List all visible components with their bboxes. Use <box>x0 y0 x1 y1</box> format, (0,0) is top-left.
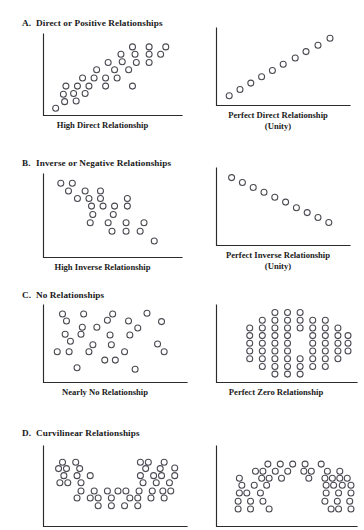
data-point <box>127 495 133 501</box>
data-point <box>322 356 328 362</box>
data-point <box>104 317 110 323</box>
data-point <box>66 349 72 355</box>
data-point <box>244 490 250 496</box>
data-point <box>56 466 62 472</box>
data-point <box>315 215 321 221</box>
data-point <box>97 196 103 202</box>
data-point <box>239 482 245 488</box>
data-point <box>259 356 265 362</box>
data-point <box>168 488 174 494</box>
data-point <box>87 495 93 501</box>
data-point <box>345 333 351 339</box>
section-d-title: Curvilinear Relationships <box>36 428 140 438</box>
data-point <box>322 348 328 354</box>
data-point <box>251 482 257 488</box>
data-point <box>297 325 303 331</box>
panel-a-right-caption: Perfect Direct Relationship (Unity) <box>198 110 358 131</box>
data-point <box>322 333 328 339</box>
data-point <box>77 466 83 472</box>
data-point <box>280 61 286 67</box>
data-point <box>124 196 130 202</box>
data-point <box>237 86 243 92</box>
data-point <box>272 371 278 377</box>
data-point <box>155 341 161 347</box>
data-point <box>327 35 333 41</box>
panel-a-right-plot <box>198 26 358 114</box>
data-point <box>304 210 310 216</box>
data-point <box>250 184 256 190</box>
section-c-title: No Relationships <box>36 290 104 300</box>
data-point <box>272 333 278 339</box>
data-point <box>248 80 254 86</box>
caption-text: Nearly No Relationship <box>62 387 148 397</box>
data-point <box>135 325 141 331</box>
caption-text-line2: (Unity) <box>198 121 358 132</box>
data-point <box>235 506 241 512</box>
data-point <box>104 488 110 494</box>
data-point <box>90 342 96 348</box>
data-point <box>247 340 253 346</box>
data-point <box>259 317 265 323</box>
data-point <box>100 203 106 209</box>
data-point <box>112 67 118 73</box>
panel-b-left-caption: High Inverse Relationship <box>20 262 185 273</box>
panel-c-right-caption: Perfect Zero Relationship <box>192 387 360 398</box>
data-point <box>324 468 330 474</box>
scatter-c-right <box>192 303 360 389</box>
data-point <box>259 74 265 80</box>
data-point <box>310 333 316 339</box>
data-point <box>259 333 265 339</box>
data-point <box>257 490 263 496</box>
section-b: B.Inverse or Negative Relationships High… <box>0 158 364 283</box>
data-point <box>303 49 309 55</box>
section-a: A.Direct or Positive Relationships High … <box>0 18 364 140</box>
data-point <box>129 44 135 50</box>
data-point <box>310 363 316 369</box>
data-point <box>285 363 291 369</box>
data-point <box>259 348 265 354</box>
data-point <box>272 325 278 331</box>
data-point <box>247 325 253 331</box>
data-point <box>159 473 165 479</box>
data-point <box>94 67 100 73</box>
data-point <box>348 506 354 512</box>
data-point <box>115 488 121 494</box>
data-point <box>79 324 85 330</box>
section-c-heading: C.No Relationships <box>22 290 104 300</box>
data-point <box>71 91 77 97</box>
panel-b-right-caption: Perfect Inverse Relationship (Unity) <box>198 250 358 271</box>
section-c: C.No Relationships Nearly No Relationshi… <box>0 290 364 408</box>
points-d-left <box>56 459 178 509</box>
data-point <box>302 461 308 467</box>
data-point <box>110 311 116 317</box>
section-b-letter: B. <box>22 158 36 168</box>
data-point <box>272 468 278 474</box>
data-point <box>335 348 341 354</box>
data-point <box>285 468 291 474</box>
section-a-title: Direct or Positive Relationships <box>36 18 163 28</box>
data-point <box>272 340 278 346</box>
data-point <box>292 55 298 61</box>
data-point <box>137 473 143 479</box>
data-point <box>239 180 245 186</box>
data-point <box>62 331 68 337</box>
data-point <box>108 342 114 348</box>
points-b-left <box>58 180 157 244</box>
data-point <box>272 363 278 369</box>
data-point <box>122 503 128 509</box>
points-a-right <box>226 35 333 98</box>
data-point <box>310 340 316 346</box>
data-point <box>335 325 341 331</box>
data-point <box>136 488 142 494</box>
data-point <box>153 480 159 486</box>
data-point <box>310 325 316 331</box>
data-point <box>285 333 291 339</box>
data-point <box>259 340 265 346</box>
data-point <box>236 490 242 496</box>
data-point <box>247 333 253 339</box>
data-point <box>95 495 101 501</box>
data-point <box>293 205 299 211</box>
data-point <box>159 319 165 325</box>
data-point <box>123 488 129 494</box>
points-c-left <box>54 310 167 372</box>
